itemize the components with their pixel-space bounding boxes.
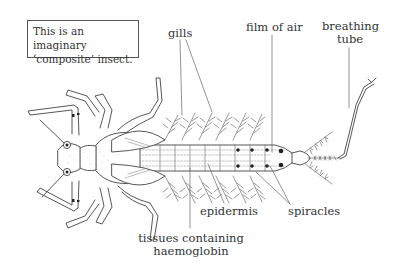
label-breathing-tube: breathing tube — [322, 20, 378, 46]
note-line-1: This is an imaginary — [33, 24, 133, 52]
note-box: This is an imaginary ‘composite’ insect. — [27, 20, 139, 58]
label-spiracles: spiracles — [288, 205, 340, 218]
breathing-tube — [338, 82, 374, 159]
gills-lower — [163, 176, 265, 203]
label-breathing-tube-line2: tube — [322, 33, 378, 46]
gills-upper — [163, 113, 265, 140]
label-tissues-haemoglobin: tissues containing haemoglobin — [136, 232, 246, 258]
note-line-2: ‘composite’ insect. — [33, 52, 133, 66]
label-epidermis: epidermis — [200, 205, 258, 218]
label-gills: gills — [168, 27, 192, 40]
label-tissues-line2: haemoglobin — [136, 245, 246, 258]
label-film-of-air: film of air — [246, 21, 303, 34]
